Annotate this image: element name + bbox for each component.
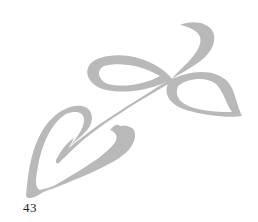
leaf-sprig-ornament-icon xyxy=(0,0,258,222)
page-number: 43 xyxy=(23,200,37,216)
book-page: 43 xyxy=(0,0,258,222)
